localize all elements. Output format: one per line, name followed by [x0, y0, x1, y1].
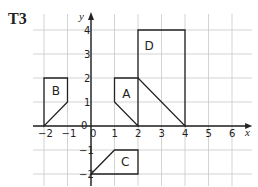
shape-label-b: B — [52, 84, 60, 98]
x-tick-label: −2 — [38, 128, 53, 139]
shape-label-c: C — [121, 155, 129, 169]
x-tick-label: 2 — [135, 128, 141, 139]
y-tick-label: 2 — [84, 73, 90, 84]
y-axis-arrow-icon — [88, 12, 94, 20]
y-tick-label: 3 — [84, 49, 90, 60]
shape-label-a: A — [122, 87, 131, 101]
y-tick-label: 4 — [84, 25, 90, 36]
coordinate-grid: −2−10123456−2−101234xyABCD — [0, 0, 258, 187]
x-axis-label: x — [244, 126, 250, 138]
x-tick-label: 0 — [90, 128, 96, 139]
x-tick-label: 1 — [112, 128, 118, 139]
x-tick-label: 6 — [229, 128, 235, 139]
y-tick-label: −1 — [79, 145, 94, 156]
x-tick-label: 3 — [159, 128, 165, 139]
y-tick-label: 0 — [81, 120, 87, 131]
x-tick-label: 5 — [206, 128, 212, 139]
y-tick-label: 1 — [84, 97, 90, 108]
x-tick-label: 4 — [182, 128, 188, 139]
x-tick-label: −1 — [62, 128, 77, 139]
y-axis-label: y — [78, 10, 84, 22]
shape-label-d: D — [145, 39, 154, 53]
